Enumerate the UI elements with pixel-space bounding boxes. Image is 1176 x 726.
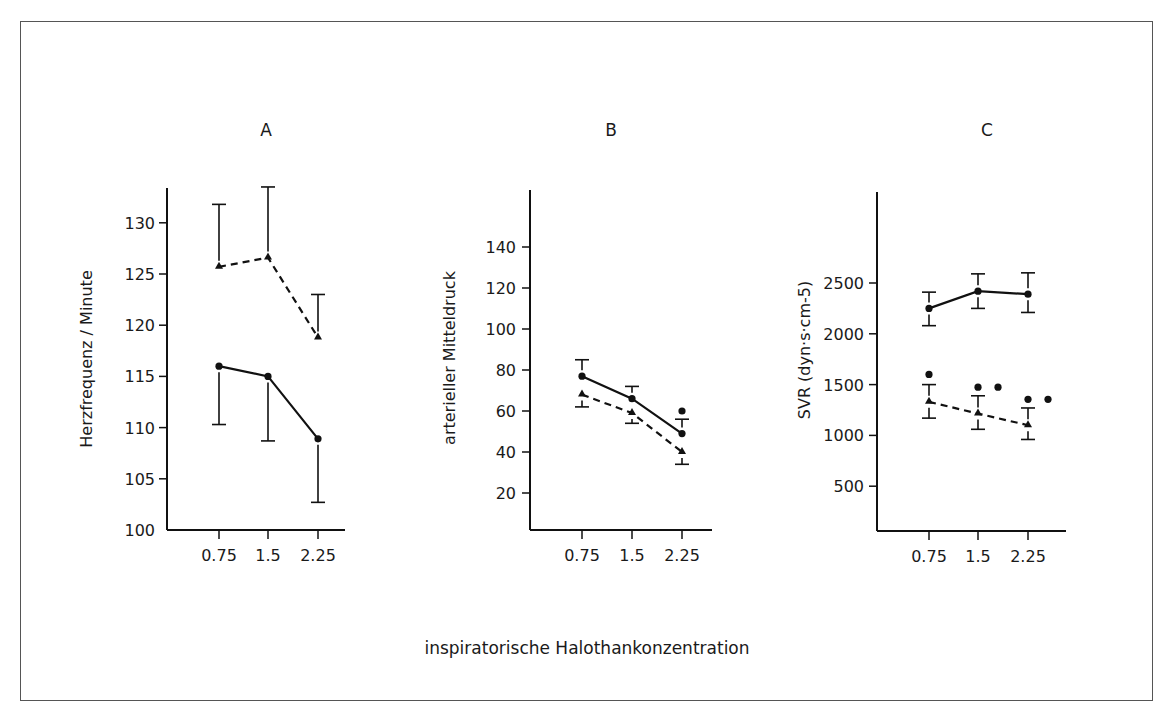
series-circle-solid — [212, 363, 325, 503]
significance-dot — [678, 407, 685, 414]
series-circle-solid — [922, 273, 1035, 326]
triangle-marker — [578, 390, 586, 397]
y-tick-label: 500 — [833, 477, 864, 496]
y-axis-label: Herzfrequenz / Minute — [77, 270, 96, 447]
triangle-marker — [264, 253, 272, 260]
circle-marker — [925, 305, 932, 312]
series-line — [582, 376, 682, 433]
significance-dot — [1024, 396, 1031, 403]
significance-dot — [1044, 396, 1051, 403]
panel-title: C — [981, 120, 993, 140]
triangle-marker — [925, 397, 933, 404]
circle-marker — [314, 435, 321, 442]
x-tick-label: 1.5 — [619, 546, 644, 565]
significance-dot — [974, 384, 981, 391]
y-axis-label: arterieller Mitteldruck — [440, 270, 459, 445]
y-tick-label: 1000 — [823, 426, 864, 445]
y-tick-label: 130 — [124, 214, 155, 233]
panel-title: B — [605, 120, 617, 140]
circle-marker — [974, 288, 981, 295]
y-tick-label: 120 — [485, 279, 516, 298]
y-tick-label: 60 — [496, 402, 516, 421]
y-tick-label: 2500 — [823, 274, 864, 293]
circle-marker — [1024, 291, 1031, 298]
x-tick-label: 0.75 — [201, 546, 237, 565]
y-tick-label: 1500 — [823, 376, 864, 395]
x-tick-label: 2.25 — [664, 546, 700, 565]
circle-marker — [628, 395, 635, 402]
y-tick-label: 2000 — [823, 325, 864, 344]
x-tick-label: 1.5 — [965, 547, 990, 566]
series-triangle-dashed — [922, 385, 1035, 440]
circle-marker — [678, 430, 685, 437]
circle-marker — [578, 373, 585, 380]
circle-marker — [215, 363, 222, 370]
x-tick-label: 1.5 — [255, 546, 280, 565]
series-line — [219, 258, 318, 338]
y-tick-label: 125 — [124, 265, 155, 284]
y-tick-label: 40 — [496, 443, 516, 462]
x-tick-label: 0.75 — [911, 547, 947, 566]
triangle-marker — [314, 332, 322, 339]
y-axis-label: SVR (dyn·s·cm-5) — [795, 281, 814, 419]
panel-a: A1001051101151201251300.751.52.25Herzfre… — [77, 120, 345, 565]
x-tick-label: 2.25 — [1010, 547, 1046, 566]
y-tick-label: 80 — [496, 361, 516, 380]
panel-title: A — [260, 120, 272, 140]
y-tick-label: 115 — [124, 367, 155, 386]
x-tick-label: 0.75 — [564, 546, 600, 565]
series-triangle-dashed — [212, 187, 325, 340]
panel-c: C50010001500200025000.751.52.25SVR (dyn·… — [795, 120, 1066, 566]
y-tick-label: 20 — [496, 484, 516, 503]
significance-dot — [925, 371, 932, 378]
circle-marker — [264, 373, 271, 380]
panel-b: B204060801001201400.751.52.25arterieller… — [440, 120, 712, 565]
y-tick-label: 140 — [485, 238, 516, 257]
y-tick-label: 110 — [124, 419, 155, 438]
x-tick-label: 2.25 — [300, 546, 336, 565]
series-circle-solid — [575, 360, 689, 437]
y-tick-label: 100 — [124, 521, 155, 540]
triangle-marker — [974, 409, 982, 416]
y-tick-label: 100 — [485, 320, 516, 339]
shared-x-axis-label: inspiratorische Halothankonzentration — [424, 638, 749, 658]
significance-dot — [994, 384, 1001, 391]
y-tick-label: 105 — [124, 470, 155, 489]
figure-canvas: A1001051101151201251300.751.52.25Herzfre… — [0, 0, 1176, 726]
y-tick-label: 120 — [124, 316, 155, 335]
